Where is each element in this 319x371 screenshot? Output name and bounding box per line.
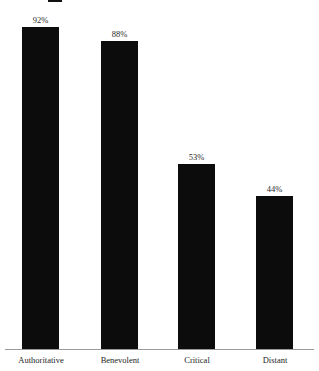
bar (101, 41, 138, 350)
x-axis-label-3: Distant (234, 355, 316, 366)
x-axis-label-1: Benevolent (79, 355, 161, 366)
bar-group-2: 53% (178, 0, 215, 350)
bar-value-label: 92% (22, 15, 59, 25)
bar-group-3: 44% (256, 0, 293, 350)
bar (178, 164, 215, 350)
bar-chart: 92% 88% 53% 44% Authoritative Benevolent… (0, 0, 319, 371)
bar-group-0: 92% (22, 0, 59, 350)
x-axis-label-2: Critical (156, 355, 238, 366)
x-axis-label-0: Authoritative (0, 355, 82, 366)
bar-value-label: 53% (178, 152, 215, 162)
bar (22, 27, 59, 350)
plot-area: 92% 88% 53% 44% (0, 0, 319, 350)
bar-value-label: 44% (256, 184, 293, 194)
x-axis-line (5, 349, 314, 350)
bar-value-label: 88% (101, 29, 138, 39)
bar-group-1: 88% (101, 0, 138, 350)
bar (256, 196, 293, 350)
